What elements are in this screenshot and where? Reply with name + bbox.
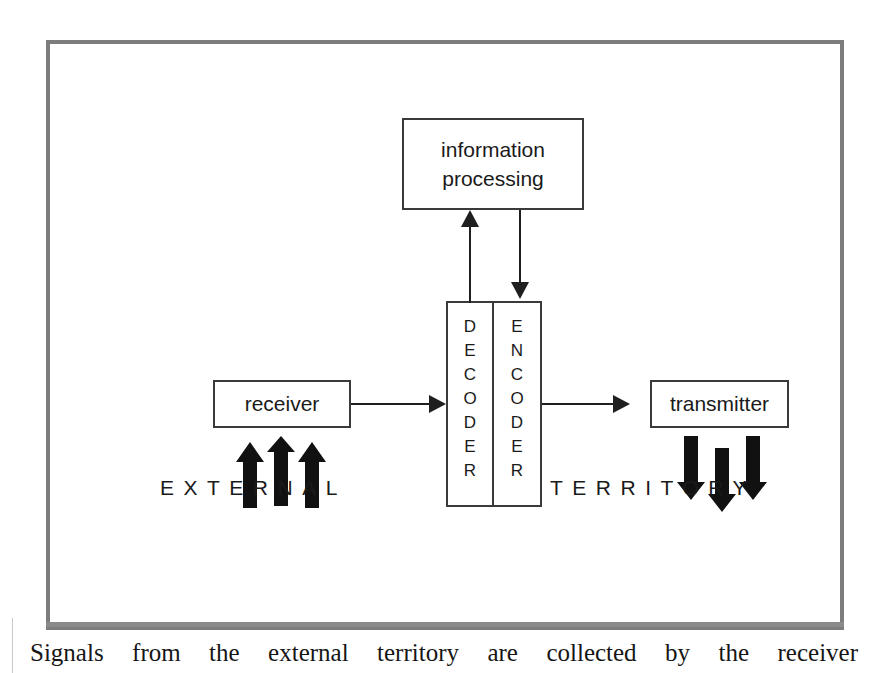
flow-encoder-to-transmitter-line <box>542 403 615 405</box>
transmitter-label: transmitter <box>670 392 769 416</box>
decoder-letter: C <box>464 363 476 387</box>
information-processing-line-2: processing <box>442 164 544 193</box>
node-information-processing: information processing <box>402 118 584 210</box>
decoder-letter: O <box>463 387 476 411</box>
figure-frame: information processing receiver transmit… <box>46 40 844 630</box>
figure-caption: Signals from the external territory are … <box>30 636 858 670</box>
node-decoder: D E C O D E R <box>448 303 494 505</box>
information-processing-line-1: information <box>441 135 545 164</box>
decoder-letter: D <box>464 411 476 435</box>
label-external: EXTERNAL <box>160 476 347 500</box>
flow-encoder-to-transmitter-arrowhead <box>613 395 630 413</box>
encoder-letter: R <box>511 459 523 483</box>
outgoing-signal-arrows <box>676 436 776 512</box>
decoder-letter: E <box>464 435 475 459</box>
encoder-letter: O <box>510 387 523 411</box>
decoder-letter: D <box>464 315 476 339</box>
flow-decoder-to-processing-arrowhead <box>461 210 479 227</box>
node-receiver: receiver <box>213 380 351 428</box>
encoder-letter: E <box>511 435 522 459</box>
flow-receiver-to-decoder-arrowhead <box>429 395 446 413</box>
flow-processing-to-encoder-line <box>519 210 521 283</box>
flow-processing-to-encoder-arrowhead <box>511 282 529 299</box>
decoder-letter: R <box>464 459 476 483</box>
encoder-letter: N <box>511 339 523 363</box>
page-edge-rule <box>12 618 13 673</box>
encoder-letter: C <box>511 363 523 387</box>
encoder-letter: E <box>511 315 522 339</box>
decoder-letter: E <box>464 339 475 363</box>
caption-rule <box>46 622 844 627</box>
label-territory: TERRITORY <box>550 476 756 500</box>
encoder-letter: D <box>511 411 523 435</box>
page: information processing receiver transmit… <box>0 0 880 673</box>
flow-receiver-to-decoder-line <box>351 403 431 405</box>
encoder-label-vertical: E N C O D E R <box>510 315 523 483</box>
node-transmitter: transmitter <box>650 380 789 428</box>
node-codec: D E C O D E R E N C O D E R <box>446 301 542 507</box>
decoder-label-vertical: D E C O D E R <box>463 315 476 483</box>
receiver-label: receiver <box>245 392 320 416</box>
node-encoder: E N C O D E R <box>494 303 540 505</box>
flow-decoder-to-processing-line <box>469 227 471 303</box>
